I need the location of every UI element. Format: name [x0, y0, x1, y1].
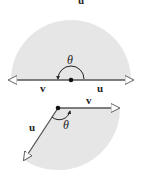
origin-dot [56, 106, 61, 111]
figure-opposite-vectors: θ v u [9, 20, 133, 94]
theta-label: θ [63, 118, 69, 132]
u-label: u [97, 82, 103, 94]
shaded-half-disk [11, 20, 131, 80]
u-label: u [29, 121, 35, 133]
origin-dot [69, 78, 74, 83]
v-label: v [40, 82, 46, 94]
partial-u-label: u [78, 0, 84, 6]
figure-obtuse-angle: θ v u [24, 94, 120, 170]
vector-angle-diagram: u θ v u θ v u [0, 0, 145, 175]
theta-label: θ [67, 53, 73, 67]
v-label: v [86, 94, 92, 106]
